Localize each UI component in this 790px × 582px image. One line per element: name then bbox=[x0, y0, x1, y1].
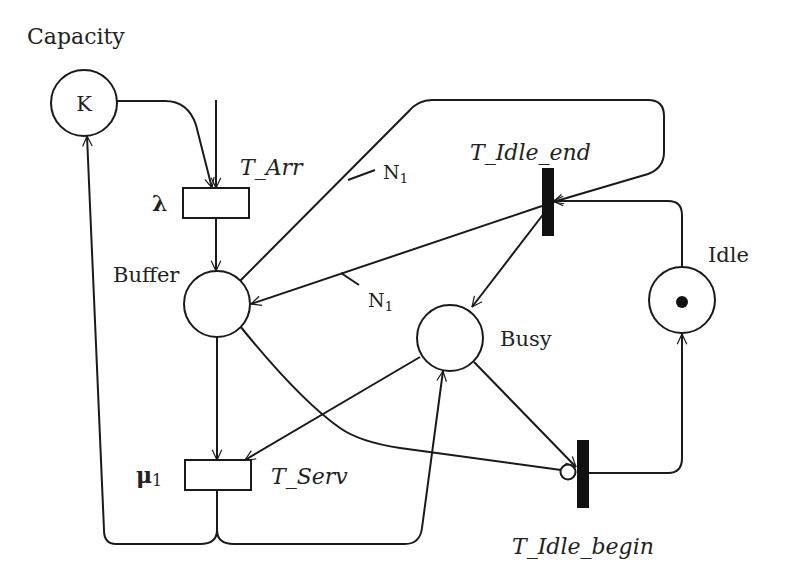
capacity-inner-label: K bbox=[76, 92, 92, 116]
t-idle-end-bar bbox=[542, 168, 554, 236]
t-arr-rate: λ bbox=[152, 190, 167, 216]
capacity-title: Capacity bbox=[27, 24, 125, 49]
arc-idle-to-tidleend bbox=[553, 201, 682, 267]
arc-busy-to-tidlebegin bbox=[474, 362, 576, 467]
t-serv-rate: μ1 bbox=[136, 462, 162, 490]
weight-lower-sub: 1 bbox=[385, 299, 393, 314]
transition-t-serv: μ1 T_Serv bbox=[136, 460, 348, 490]
weight-tick-lower bbox=[341, 273, 359, 285]
weight-lower-main: N bbox=[368, 289, 385, 311]
t-serv-label: T_Serv bbox=[271, 464, 348, 489]
transition-t-idle-end: T_Idle_end bbox=[470, 140, 591, 236]
busy-circle bbox=[417, 305, 483, 371]
arc-buffer-to-tidleend bbox=[240, 100, 664, 281]
arc-tidlebegin-to-idle bbox=[588, 334, 682, 473]
t-idle-begin-label: T_Idle_begin bbox=[512, 534, 654, 559]
t-arr-label: T_Arr bbox=[240, 155, 304, 180]
t-serv-rate-symbol: μ bbox=[136, 462, 152, 488]
buffer-label: Buffer bbox=[113, 263, 180, 287]
transition-t-idle-begin: T_Idle_begin bbox=[512, 440, 654, 559]
arc-busy-to-tserv bbox=[245, 357, 420, 460]
t-serv-rate-sub: 1 bbox=[152, 471, 162, 490]
arc-tidleend-to-buffer bbox=[251, 206, 542, 304]
arc-capacity-to-tarr bbox=[117, 101, 212, 188]
weight-label-upper: N1 bbox=[383, 161, 408, 186]
place-busy: Busy bbox=[417, 305, 552, 371]
place-idle: Idle bbox=[649, 243, 749, 333]
transition-t-arr: λ T_Arr bbox=[152, 155, 304, 218]
place-capacity: Capacity K bbox=[27, 24, 125, 136]
inhibitor-circle-icon bbox=[561, 465, 576, 480]
busy-label: Busy bbox=[500, 327, 552, 351]
t-idle-end-label: T_Idle_end bbox=[470, 140, 591, 165]
weight-upper-main: N bbox=[383, 161, 400, 183]
place-buffer: Buffer bbox=[113, 263, 250, 337]
buffer-circle bbox=[184, 271, 250, 337]
petri-net-diagram: Capacity K Buffer Busy Idle λ T_Arr μ1 T… bbox=[0, 0, 790, 582]
t-idle-begin-bar bbox=[577, 440, 589, 508]
weight-upper-sub: 1 bbox=[400, 171, 408, 186]
weight-label-lower: N1 bbox=[368, 289, 393, 314]
t-serv-box bbox=[185, 460, 251, 490]
token-icon bbox=[676, 296, 688, 308]
t-arr-box bbox=[183, 188, 249, 218]
idle-label: Idle bbox=[708, 243, 749, 267]
weight-tick-upper bbox=[348, 170, 375, 180]
